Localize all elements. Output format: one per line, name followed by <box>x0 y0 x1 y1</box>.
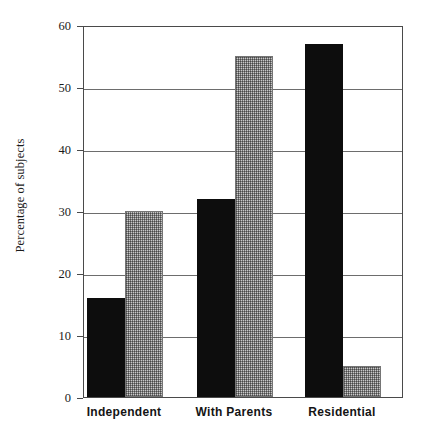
y-axis-tick-label: 50 <box>43 82 71 95</box>
bar-chart-figure: Percentage of subjects 0102030405060 Ind… <box>0 0 424 445</box>
y-axis-title: Percentage of subjects <box>13 96 28 296</box>
bar <box>305 44 343 397</box>
y-axis-tick-label: 10 <box>43 330 71 343</box>
bar <box>197 199 235 397</box>
y-axis-tick <box>77 398 83 399</box>
x-axis-category-label: Residential <box>272 405 412 419</box>
bar <box>343 366 381 397</box>
bar <box>235 56 273 397</box>
plot-area <box>83 26 403 398</box>
bar <box>87 298 125 397</box>
y-axis-tick-label: 20 <box>43 268 71 281</box>
y-axis-tick-label: 40 <box>43 144 71 157</box>
y-axis-tick-label: 0 <box>43 392 71 405</box>
y-axis-tick-label: 60 <box>43 20 71 33</box>
bar <box>125 211 163 397</box>
y-axis-tick-label: 30 <box>43 206 71 219</box>
